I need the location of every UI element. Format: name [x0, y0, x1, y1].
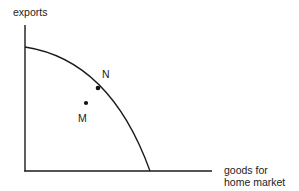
- y-axis-label: exports: [13, 6, 47, 18]
- ppf-diagram: [0, 0, 299, 191]
- x-axis-label-line2: home market: [224, 176, 285, 188]
- frontier-curve: [25, 47, 150, 171]
- point-n-label: N: [102, 68, 110, 80]
- point-n: [96, 86, 101, 91]
- point-m-label: M: [78, 112, 87, 124]
- x-axis-label-line1: goods for: [224, 164, 268, 176]
- point-m: [84, 101, 88, 105]
